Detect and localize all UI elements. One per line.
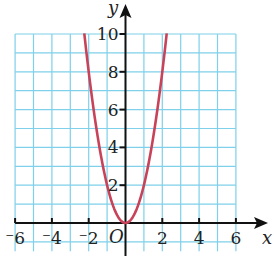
y-tick-label: 4 [108,137,119,157]
x-tick-label: 2 [157,228,168,248]
x-tick-label: ⁻6 [5,228,25,248]
y-tick-label: 6 [108,100,119,120]
x-tick-label: 4 [194,228,205,248]
x-tick-label: ⁻2 [79,228,99,248]
x-tick-label: 6 [230,228,241,248]
y-axis-label: y [107,0,119,18]
y-tick-label: 8 [108,62,119,82]
parabola-chart: ⁻6⁻4⁻2246246810xyO [0,0,274,256]
axes [15,4,268,256]
x-tick-label: ⁻4 [42,228,62,248]
y-tick-label: 2 [108,175,119,195]
origin-label: O [109,226,124,247]
y-tick-label: 10 [97,24,119,44]
labels: ⁻6⁻4⁻2246246810xyO [5,0,272,248]
x-axis-label: x [262,227,272,248]
